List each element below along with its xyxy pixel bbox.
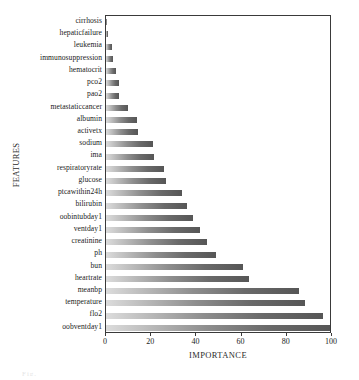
category-label: oobventday1 <box>14 323 102 331</box>
x-tick-mark <box>105 333 106 336</box>
category-label: leukemia <box>14 41 102 49</box>
x-tick-label: 60 <box>237 337 245 346</box>
bar-row <box>106 78 331 88</box>
bar <box>106 178 166 184</box>
category-label: sodium <box>14 139 102 147</box>
category-label: temperature <box>14 298 102 306</box>
feature-importance-chart: FEATURES cirrhosishepaticfailureleukemia… <box>0 0 359 380</box>
category-label: metastaticcancer <box>14 103 102 111</box>
category-label: ptcawithin24h <box>14 188 102 196</box>
bar-row <box>106 262 331 272</box>
category-label: hepaticfailure <box>14 29 102 37</box>
bar <box>106 190 182 196</box>
x-tick-mark <box>195 333 196 336</box>
bar <box>106 203 187 209</box>
bar <box>106 19 107 25</box>
category-label: ph <box>14 249 102 257</box>
bar-row <box>106 188 331 198</box>
x-tick-label: 80 <box>282 337 290 346</box>
bar <box>106 80 119 86</box>
bar-row <box>106 286 331 296</box>
category-label: ventday1 <box>14 225 102 233</box>
category-label: pao2 <box>14 90 102 98</box>
category-label: cirrhosis <box>14 17 102 25</box>
category-label: bilirubin <box>14 200 102 208</box>
category-label: oobintubday1 <box>14 213 102 221</box>
bar <box>106 141 153 147</box>
category-label: meanbp <box>14 286 102 294</box>
category-label: flo2 <box>14 310 102 318</box>
bar-row <box>106 115 331 125</box>
bar <box>106 93 119 99</box>
category-label: heartrate <box>14 274 102 282</box>
bar-row <box>106 29 331 39</box>
bar <box>106 227 200 233</box>
bar <box>106 117 137 123</box>
bar-row <box>106 250 331 260</box>
category-label: pco2 <box>14 78 102 86</box>
bar <box>106 44 112 50</box>
bar-row <box>106 17 331 27</box>
bar-row <box>106 127 331 137</box>
category-label: glucose <box>14 176 102 184</box>
bar <box>106 31 108 37</box>
bar-row <box>106 42 331 52</box>
bar-row <box>106 103 331 113</box>
caption-fragment: Fig. <box>22 370 37 376</box>
bar-row <box>106 274 331 284</box>
bar-row <box>106 237 331 247</box>
bar-row <box>106 164 331 174</box>
bar <box>106 56 113 62</box>
bar <box>106 264 243 270</box>
x-tick-label: 20 <box>146 337 154 346</box>
category-label: respiratoryrate <box>14 164 102 172</box>
x-tick-label: 100 <box>325 337 337 346</box>
bar <box>106 129 138 135</box>
bar-row <box>106 298 331 308</box>
bar-row <box>106 213 331 223</box>
bar <box>106 68 116 74</box>
bar <box>106 215 193 221</box>
bar-row <box>106 152 331 162</box>
category-label: albumin <box>14 115 102 123</box>
x-tick-mark <box>286 333 287 336</box>
bar-row <box>106 176 331 186</box>
x-tick-mark <box>150 333 151 336</box>
x-tick-mark <box>331 333 332 336</box>
category-label: hematocrit <box>14 66 102 74</box>
x-axis-title: IMPORTANCE <box>105 350 331 360</box>
category-label: creatinine <box>14 237 102 245</box>
bar <box>106 288 299 294</box>
category-label: bun <box>14 262 102 270</box>
bar <box>106 313 323 319</box>
bar-row <box>106 54 331 64</box>
bar <box>106 166 164 172</box>
bar-row <box>106 91 331 101</box>
bar-row <box>106 201 331 211</box>
plot-area <box>105 15 331 333</box>
category-label: immunosuppression <box>14 54 102 62</box>
bar <box>106 325 330 331</box>
x-tick-mark <box>241 333 242 336</box>
bar <box>106 239 207 245</box>
bar-row <box>106 311 331 321</box>
bar <box>106 105 128 111</box>
bar-row <box>106 139 331 149</box>
category-label: ima <box>14 151 102 159</box>
bar-row <box>106 225 331 235</box>
bar <box>106 300 305 306</box>
bar <box>106 154 154 160</box>
bar <box>106 276 249 282</box>
category-label: activetx <box>14 127 102 135</box>
x-tick-label: 40 <box>191 337 199 346</box>
bar-row <box>106 323 331 333</box>
bar <box>106 252 216 258</box>
bar-row <box>106 66 331 76</box>
y-axis-category-labels: cirrhosishepaticfailureleukemiaimmunosup… <box>14 15 102 333</box>
x-tick-label: 0 <box>103 337 107 346</box>
